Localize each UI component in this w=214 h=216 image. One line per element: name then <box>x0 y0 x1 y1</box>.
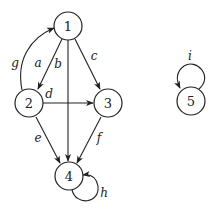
edge-label-f: f <box>96 131 104 145</box>
directed-graph: a b c d e f g h i 1 2 3 4 <box>0 0 214 216</box>
edge-label-h: h <box>100 186 108 200</box>
node-1: 1 <box>54 12 82 40</box>
node-3: 3 <box>94 89 122 117</box>
edge-label-a: a <box>34 56 41 70</box>
edge-label-g: g <box>11 56 19 70</box>
edge-c <box>75 39 100 89</box>
edge-label-c: c <box>91 49 98 63</box>
node-label-3: 3 <box>104 96 112 111</box>
node-4: 4 <box>55 162 83 190</box>
node-label-1: 1 <box>64 19 72 34</box>
edge-label-b: b <box>54 57 62 71</box>
edge-label-i: i <box>188 49 192 63</box>
edge-label-d: d <box>45 87 53 101</box>
node-label-4: 4 <box>65 169 73 184</box>
node-label-2: 2 <box>25 96 33 111</box>
node-label-5: 5 <box>187 94 195 109</box>
node-2: 2 <box>15 89 43 117</box>
node-5: 5 <box>177 87 205 115</box>
edge-i <box>177 64 204 89</box>
edge-label-e: e <box>34 131 41 145</box>
